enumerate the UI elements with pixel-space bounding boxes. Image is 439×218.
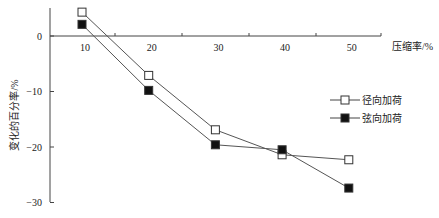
x-tick-label: 50 bbox=[347, 42, 357, 53]
x-tick-label: 30 bbox=[213, 42, 223, 53]
axes: 0−10−20−301020304050 bbox=[26, 8, 381, 208]
y-tick-label: −30 bbox=[26, 197, 42, 208]
open-square-marker bbox=[211, 126, 219, 134]
y-tick-label: −20 bbox=[26, 142, 42, 153]
filled-square-marker bbox=[345, 184, 353, 192]
open-square-marker bbox=[345, 156, 353, 164]
filled-square-marker bbox=[78, 20, 86, 28]
legend-open-square-icon bbox=[341, 96, 349, 104]
y-tick-label: 0 bbox=[37, 31, 42, 42]
filled-square-marker bbox=[145, 86, 153, 94]
y-axis-title: 变化的百分率/% bbox=[8, 79, 20, 150]
x-tick-label: 20 bbox=[147, 42, 157, 53]
x-tick-label: 10 bbox=[80, 42, 90, 53]
x-tick-label: 40 bbox=[280, 42, 290, 53]
legend: 径向加荷弦向加荷 bbox=[330, 94, 402, 124]
line-chart: 0−10−20−301020304050 径向加荷弦向加荷 压缩率/% 变化的百… bbox=[0, 0, 439, 218]
filled-square-marker bbox=[211, 141, 219, 149]
legend-filled-square-icon bbox=[341, 114, 349, 122]
legend-label-1: 径向加荷 bbox=[362, 94, 402, 106]
x-axis-title: 压缩率/% bbox=[392, 40, 433, 52]
filled-square-marker bbox=[278, 146, 286, 154]
series-line-1 bbox=[82, 12, 349, 160]
open-square-marker bbox=[145, 71, 153, 79]
legend-label-2: 弦向加荷 bbox=[362, 112, 402, 124]
open-square-marker bbox=[78, 8, 86, 16]
y-tick-label: −10 bbox=[26, 86, 42, 97]
